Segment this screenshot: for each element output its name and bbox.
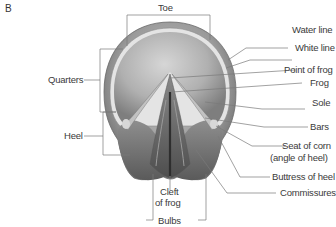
label-toe: Toe [158,2,173,13]
label-heel: Heel [64,130,83,141]
label-cleft-line2: of frog [155,197,181,208]
label-white-line: White line [295,42,335,53]
label-frog: Frog [310,77,329,88]
label-water-line: Water line [292,24,332,35]
label-buttress-of-heel: Buttress of heel [272,171,335,182]
label-bulbs: Bulbs [158,215,181,226]
label-quarters: Quarters [48,74,83,85]
label-point-of-frog: Point of frog [284,64,333,75]
label-sole: Sole [312,97,330,108]
label-seat-of-corn-line1: Seat of corn [282,140,331,151]
panel-label: B [5,3,12,14]
label-bars: Bars [310,121,329,132]
label-commissures: Commissures [280,187,336,198]
label-cleft-line1: Cleft [160,186,179,197]
label-seat-of-corn-line2: (angle of heel) [270,152,328,163]
